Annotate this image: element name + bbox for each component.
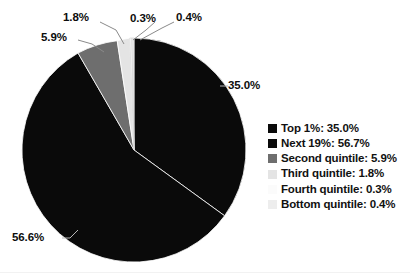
pie-label-second-quintile: 5.9% [41,31,67,43]
legend-item-label: Third quintile: 1.8% [281,168,384,180]
pie-label-top1: 35.0% [228,79,260,91]
legend-swatch-icon [268,154,277,163]
legend-item-label: Top 1%: 35.0% [281,123,359,135]
legend-swatch-icon [268,185,277,194]
pie-label-next19: 56.6% [12,231,44,243]
legend-item-fourth-quintile: Fourth quintile: 0.3% [268,182,408,197]
legend-swatch-icon [268,124,277,133]
legend-item-bottom-quintile: Bottom quintile: 0.4% [268,197,408,212]
pie-chart-plot-area: 35.0% 56.6% 5.9% 1.8% 0.3% 0.4% [0,0,266,273]
legend-item-label: Bottom quintile: 0.4% [281,199,395,211]
legend-item-second-quintile: Second quintile: 5.9% [268,151,408,166]
legend-item-label: Second quintile: 5.9% [281,153,397,165]
legend-item-label: Next 19%: 56.7% [281,138,370,150]
chart-legend: Top 1%: 35.0% Next 19%: 56.7% Second qui… [268,121,408,212]
legend-item-label: Fourth quintile: 0.3% [281,184,392,196]
pie-chart-figure: 35.0% 56.6% 5.9% 1.8% 0.3% 0.4% Top 1%: … [0,0,410,273]
pie-label-third-quintile: 1.8% [63,11,89,23]
legend-swatch-icon [268,170,277,179]
legend-item-third-quintile: Third quintile: 1.8% [268,167,408,182]
legend-item-next19: Next 19%: 56.7% [268,136,408,151]
legend-swatch-icon [268,139,277,148]
legend-swatch-icon [268,200,277,209]
pie-label-bottom-quintile: 0.4% [176,11,202,23]
legend-item-top1: Top 1%: 35.0% [268,121,408,136]
pie-label-fourth-quintile: 0.3% [130,12,156,24]
